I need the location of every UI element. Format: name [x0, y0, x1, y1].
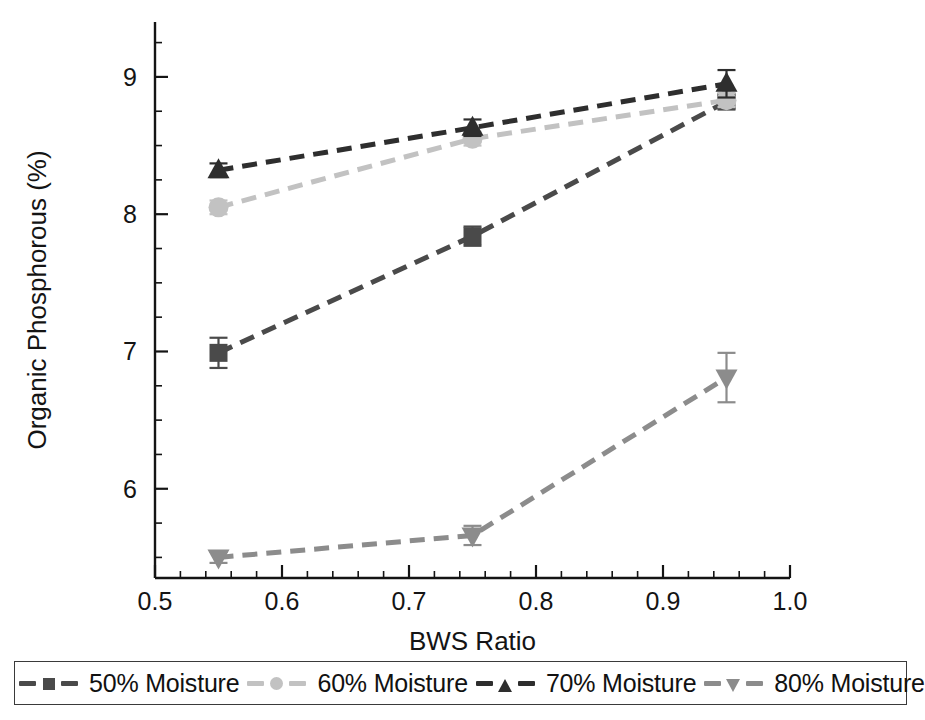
legend-item-80-moisture[interactable]: 80% Moisture	[700, 669, 925, 698]
y-tick-label: 9	[123, 63, 137, 91]
legend-item-50-moisture[interactable]: 50% Moisture	[15, 669, 243, 698]
legend-item-70-moisture[interactable]: 70% Moisture	[472, 669, 700, 698]
legend-item-60-moisture[interactable]: 60% Moisture	[243, 669, 471, 698]
x-tick-label: 1.0	[773, 587, 808, 615]
x-tick-label: 0.9	[646, 587, 681, 615]
y-tick-label: 7	[123, 337, 137, 365]
y-axis-title: Organic Phosphorous (%)	[22, 150, 52, 449]
series-80-moisture	[208, 353, 738, 570]
data-point-square-marker	[464, 227, 482, 245]
legend-label: 70% Moisture	[546, 669, 696, 698]
legend-dash-left-icon	[476, 681, 493, 686]
data-point-circle-marker	[209, 197, 229, 217]
legend-dash-left-icon	[19, 681, 36, 686]
legend-dash-left-icon	[704, 681, 721, 686]
legend-label: 50% Moisture	[89, 669, 239, 698]
series-60-moisture	[209, 90, 737, 217]
x-axis-title: BWS Ratio	[409, 626, 536, 656]
data-point-triangle-down-marker	[716, 370, 738, 390]
legend-label: 60% Moisture	[317, 669, 467, 698]
y-tick-label: 6	[123, 475, 137, 503]
legend-label: 80% Moisture	[774, 669, 924, 698]
line-chart-plot: 67890.50.60.70.80.91.0BWS RatioOrganic P…	[0, 0, 925, 660]
x-tick-label: 0.7	[392, 587, 427, 615]
series-70-moisture	[208, 70, 738, 178]
legend-dash-right-icon	[746, 681, 763, 686]
legend-dash-right-icon	[518, 681, 535, 686]
legend-dash-right-icon	[289, 681, 306, 686]
legend-dash-right-icon	[61, 681, 78, 686]
chart-figure: 67890.50.60.70.80.91.0BWS RatioOrganic P…	[0, 0, 925, 720]
data-point-triangle-up-marker	[716, 72, 738, 92]
square-marker-icon	[41, 676, 56, 691]
data-point-square-marker	[210, 344, 228, 362]
triangle-up-marker-icon	[498, 676, 513, 691]
x-tick-label: 0.8	[519, 587, 554, 615]
circle-marker-icon	[269, 676, 284, 691]
triangle-down-marker-icon	[726, 676, 741, 691]
data-point-triangle-down-marker	[208, 549, 230, 569]
chart-legend: 50% Moisture60% Moisture70% Moisture80% …	[14, 661, 907, 705]
y-tick-label: 8	[123, 200, 137, 228]
x-tick-label: 0.5	[138, 587, 173, 615]
legend-dash-left-icon	[247, 681, 264, 686]
x-tick-label: 0.6	[265, 587, 300, 615]
